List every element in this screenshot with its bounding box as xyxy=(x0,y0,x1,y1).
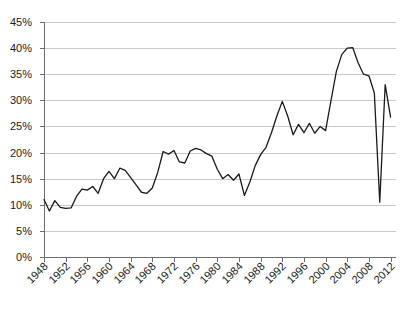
y-tick-label-15: 15% xyxy=(10,173,32,185)
chart-canvas: 0%5%10%15%20%25%30%35%40%45%194819521956… xyxy=(0,0,402,309)
x-tick-label-1976: 1976 xyxy=(176,260,202,286)
x-tick-label-1988: 1988 xyxy=(241,260,267,286)
x-tick-label-2012: 2012 xyxy=(371,260,397,286)
y-axis-labels: 0%5%10%15%20%25%30%35%40%45% xyxy=(10,16,44,263)
x-tick-label-1956: 1956 xyxy=(67,260,93,286)
y-tick-label-10: 10% xyxy=(10,199,32,211)
line-chart: 0%5%10%15%20%25%30%35%40%45%194819521956… xyxy=(0,0,402,309)
x-tick-label-1964: 1964 xyxy=(111,260,137,286)
y-tick-label-45: 45% xyxy=(10,16,32,28)
y-tick-label-35: 35% xyxy=(10,68,32,80)
x-tick-label-1980: 1980 xyxy=(197,260,223,286)
y-tick-label-20: 20% xyxy=(10,147,32,159)
x-tick-label-1996: 1996 xyxy=(284,260,310,286)
x-tick-label-1984: 1984 xyxy=(219,260,245,286)
y-tick-label-40: 40% xyxy=(10,42,32,54)
y-tick-label-25: 25% xyxy=(10,120,32,132)
y-tick-label-30: 30% xyxy=(10,94,32,106)
x-tick-label-1948: 1948 xyxy=(24,260,50,286)
x-tick-label-2004: 2004 xyxy=(327,260,353,286)
x-tick-label-2008: 2008 xyxy=(349,260,375,286)
x-tick-label-1968: 1968 xyxy=(132,260,158,286)
x-tick-label-1972: 1972 xyxy=(154,260,180,286)
x-tick-label-1992: 1992 xyxy=(262,260,288,286)
data-series-line-1 xyxy=(44,48,391,211)
y-tick-label-5: 5% xyxy=(16,225,32,237)
x-axis-labels: 1948195219561960196419681972197619801984… xyxy=(24,257,397,286)
y-tick-label-0: 0% xyxy=(16,251,32,263)
x-tick-label-1952: 1952 xyxy=(46,260,72,286)
x-tick-label-1960: 1960 xyxy=(89,260,115,286)
x-tick-label-2000: 2000 xyxy=(306,260,332,286)
gridlines xyxy=(44,23,396,232)
